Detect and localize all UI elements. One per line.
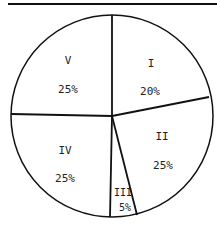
divider-iii-iv [110, 116, 112, 217]
slice-iv: IV 25% [55, 144, 75, 185]
slice-iii: III 5% [114, 187, 132, 213]
slice-name: II [155, 130, 168, 143]
slice-percent: 25% [55, 172, 75, 185]
slice-name: III [114, 187, 132, 198]
slice-percent: 25% [58, 83, 78, 96]
slice-name: I [148, 57, 155, 70]
slice-name: IV [58, 144, 72, 157]
pie-chart: V 25% I 20% II 25% III 5% IV 25% [0, 0, 217, 231]
divider-ii-iii [112, 116, 137, 215]
divider-iv-v [11, 114, 112, 116]
slice-i: I 20% [140, 57, 160, 98]
slice-ii: II 25% [153, 130, 173, 172]
slice-v: V 25% [58, 54, 78, 96]
divider-i-ii [112, 97, 209, 116]
slice-name: V [65, 54, 72, 67]
slice-percent: 25% [153, 159, 173, 172]
slice-percent: 20% [140, 85, 160, 98]
slice-percent: 5% [119, 202, 131, 213]
